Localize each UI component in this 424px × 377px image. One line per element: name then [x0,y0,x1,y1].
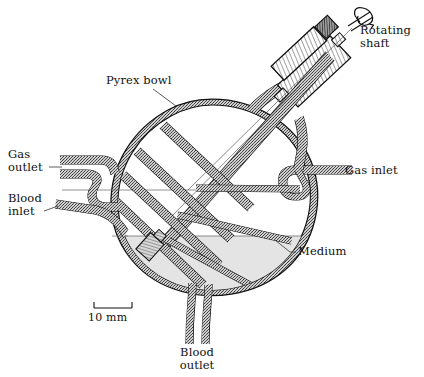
label-scale-bar: 10 mm [88,311,127,324]
figure-page: Rotating shaft Pyrex bowl Gas outlet Blo… [0,0,424,377]
label-pyrex-bowl: Pyrex bowl [106,74,172,87]
label-medium: Medium [298,245,347,258]
disc-cross-rod-1 [196,185,300,192]
oxygenator-diagram [0,0,424,377]
leader-pyrex-bowl [153,89,176,106]
label-blood-outlet: Blood outlet [167,346,227,372]
label-gas-inlet: Gas inlet [345,164,398,177]
scale-bar [94,302,132,308]
label-rotating-shaft: Rotating shaft [360,24,411,50]
label-gas-outlet: Gas outlet [8,148,43,174]
label-blood-inlet: Blood inlet [8,192,42,218]
